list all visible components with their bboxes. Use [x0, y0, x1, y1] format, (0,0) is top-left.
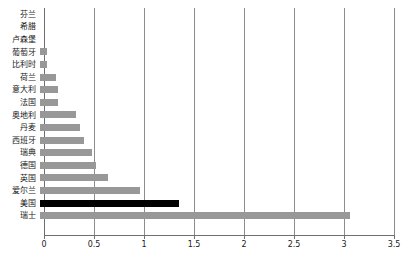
chart-row: 丹麦 — [0, 121, 410, 134]
bar — [40, 48, 47, 55]
bar-track — [40, 172, 410, 185]
bar-track — [40, 197, 410, 210]
bar — [40, 200, 179, 207]
bar — [40, 187, 140, 194]
chart-row: 瑞士 — [0, 210, 410, 223]
chart-row: 希腊 — [0, 21, 410, 34]
bar-track — [40, 8, 410, 21]
category-label: 爱尔兰 — [0, 186, 40, 195]
category-label: 瑞士 — [0, 211, 40, 220]
chart-row: 芬兰 — [0, 8, 410, 21]
chart-rows: 芬兰希腊卢森堡葡萄牙比利时荷兰意大利法国奥地利丹麦西班牙瑞典德国英国爱尔兰美国瑞… — [0, 8, 410, 235]
bar-track — [40, 210, 410, 223]
bar-track — [40, 121, 410, 134]
category-label: 奥地利 — [0, 111, 40, 120]
bar — [40, 99, 58, 106]
bar-track — [40, 33, 410, 46]
bar-track — [40, 21, 410, 34]
category-label: 葡萄牙 — [0, 48, 40, 57]
bar — [40, 212, 350, 219]
chart-row: 比利时 — [0, 58, 410, 71]
bar-track — [40, 84, 410, 97]
bar — [40, 61, 47, 68]
bar — [40, 124, 80, 131]
chart-row: 美国 — [0, 197, 410, 210]
chart-row: 法国 — [0, 96, 410, 109]
tick-mark-2.5 — [294, 235, 295, 239]
category-label: 丹麦 — [0, 123, 40, 132]
tick-mark-0 — [44, 235, 45, 239]
x-tick-label: 0.5 — [88, 240, 101, 250]
category-label: 美国 — [0, 199, 40, 208]
tick-mark-3 — [344, 235, 345, 239]
category-label: 西班牙 — [0, 136, 40, 145]
bar — [40, 137, 84, 144]
chart-row: 西班牙 — [0, 134, 410, 147]
category-label: 德国 — [0, 161, 40, 170]
category-label: 比利时 — [0, 60, 40, 69]
x-tick-label: 2 — [241, 240, 246, 250]
bar-track — [40, 109, 410, 122]
x-tick-label: 3 — [341, 240, 346, 250]
chart-row: 卢森堡 — [0, 33, 410, 46]
bar — [40, 111, 76, 118]
bar — [40, 86, 58, 93]
bar — [40, 174, 108, 181]
x-tick-label: 2.5 — [288, 240, 301, 250]
bar — [40, 162, 96, 169]
bar — [40, 74, 56, 81]
tick-mark-1 — [144, 235, 145, 239]
tick-mark-1.5 — [194, 235, 195, 239]
bar-track — [40, 46, 410, 59]
tick-mark-3.5 — [394, 235, 395, 239]
bar-track — [40, 71, 410, 84]
bar-track — [40, 96, 410, 109]
tick-mark-2 — [244, 235, 245, 239]
x-axis: 00.511.522.533.5 — [0, 235, 410, 262]
chart-row: 意大利 — [0, 84, 410, 97]
category-label: 荷兰 — [0, 73, 40, 82]
category-label: 英国 — [0, 174, 40, 183]
category-label: 意大利 — [0, 85, 40, 94]
chart-row: 瑞典 — [0, 147, 410, 160]
category-label: 芬兰 — [0, 10, 40, 19]
chart-row: 爱尔兰 — [0, 184, 410, 197]
bar — [40, 149, 92, 156]
x-tick-label: 1 — [141, 240, 146, 250]
chart-row: 奥地利 — [0, 109, 410, 122]
x-tick-label: 3.5 — [388, 240, 401, 250]
bar-chart: 芬兰希腊卢森堡葡萄牙比利时荷兰意大利法国奥地利丹麦西班牙瑞典德国英国爱尔兰美国瑞… — [0, 0, 410, 262]
chart-title — [0, 0, 410, 2]
x-tick-label: 0 — [41, 240, 46, 250]
x-tick-label: 1.5 — [188, 240, 201, 250]
chart-row: 葡萄牙 — [0, 46, 410, 59]
bar-track — [40, 58, 410, 71]
bar-track — [40, 134, 410, 147]
chart-row: 英国 — [0, 172, 410, 185]
category-label: 法国 — [0, 98, 40, 107]
bar-track — [40, 147, 410, 160]
tick-mark-0.5 — [94, 235, 95, 239]
bar-track — [40, 159, 410, 172]
category-label: 卢森堡 — [0, 35, 40, 44]
category-label: 瑞典 — [0, 148, 40, 157]
category-label: 希腊 — [0, 22, 40, 31]
chart-row: 德国 — [0, 159, 410, 172]
bar-track — [40, 184, 410, 197]
chart-row: 荷兰 — [0, 71, 410, 84]
